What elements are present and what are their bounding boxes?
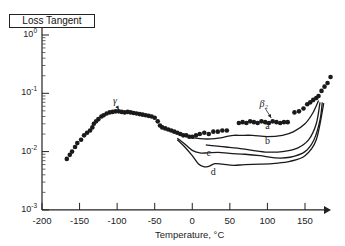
x-axis-label: Temperature, °C — [155, 229, 224, 240]
y-tick-label: 10-2 — [21, 144, 37, 156]
x-tick-label: 50 — [225, 215, 236, 226]
x-axis-arrow-icon — [324, 206, 331, 214]
chart-canvas: γβ₂abcd — [0, 0, 345, 246]
x-tick-label: -150 — [70, 215, 89, 226]
x-tick-label: 0 — [190, 215, 195, 226]
data-point — [79, 137, 84, 142]
data-point — [64, 157, 69, 162]
y-tick-label: 10-1 — [21, 85, 37, 97]
x-tick-label: 100 — [259, 215, 275, 226]
data-point — [152, 115, 157, 120]
data-point — [216, 129, 221, 134]
data-point — [328, 75, 333, 80]
data-point — [319, 89, 324, 94]
data-point — [316, 94, 321, 99]
annotation-label: c — [207, 147, 212, 158]
data-point — [297, 109, 302, 114]
data-point — [220, 128, 225, 133]
data-point — [322, 84, 327, 89]
data-point — [225, 128, 230, 133]
data-point — [75, 141, 80, 146]
series--2-dots- — [237, 75, 333, 126]
data-point — [155, 119, 160, 124]
annotation-label: b — [265, 135, 270, 146]
data-point — [325, 81, 330, 86]
data-point — [285, 120, 290, 125]
data-point — [73, 145, 78, 150]
data-point — [207, 132, 212, 137]
x-tick-label: -200 — [32, 215, 51, 226]
data-point — [301, 106, 306, 111]
data-point — [70, 149, 75, 154]
annotation-label: β₂ — [258, 98, 268, 109]
x-tick-label: -50 — [148, 215, 162, 226]
annotation-label: γ — [113, 95, 118, 106]
data-point — [202, 131, 207, 136]
y-tick-label: 100 — [23, 27, 37, 39]
x-tick-label: 150 — [297, 215, 313, 226]
y-axis-label: Loss Tangent — [9, 14, 95, 28]
data-point — [211, 129, 216, 134]
data-point — [197, 132, 202, 137]
y-tick-label: 10-3 — [21, 202, 37, 214]
data-point — [292, 110, 297, 115]
annotation-label: a — [265, 120, 270, 131]
series-layer — [64, 75, 332, 167]
annotation-label: d — [211, 166, 216, 177]
x-tick-label: -100 — [108, 215, 127, 226]
